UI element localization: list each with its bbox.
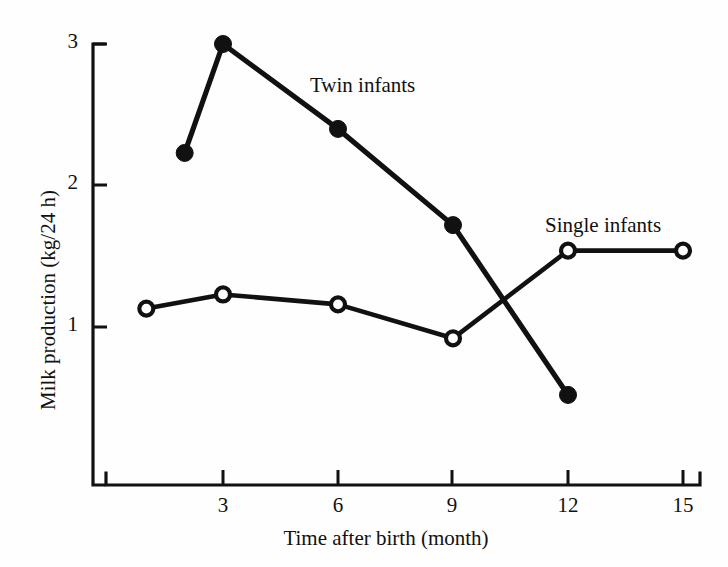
x-axis-line [106, 473, 700, 485]
data-point [560, 386, 577, 403]
x-tick-label-12: 12 [548, 495, 588, 516]
data-point [331, 297, 345, 311]
y-tick-label-3: 3 [48, 31, 78, 52]
chart-figure: 3 2 1 3 6 9 12 15 Time after birth (mont… [0, 0, 728, 567]
data-point [676, 244, 690, 258]
series-single-infants [139, 244, 690, 346]
data-point [446, 331, 460, 345]
y-axis-title: Milk production (kg/24 h) [36, 190, 61, 410]
x-tick-label-9: 9 [432, 495, 472, 516]
x-tick-label-6: 6 [318, 495, 358, 516]
data-point [561, 244, 575, 258]
data-point [176, 144, 193, 161]
data-point [139, 302, 153, 316]
data-point [215, 36, 232, 53]
data-point [445, 217, 462, 234]
x-tick-label-3: 3 [203, 495, 243, 516]
series-label-twin-infants: Twin infants [310, 73, 415, 98]
data-point [216, 287, 230, 301]
x-axis-title: Time after birth (month) [236, 526, 536, 551]
x-tick-label-15: 15 [663, 495, 703, 516]
y-axis-line [93, 44, 104, 485]
data-point [330, 120, 347, 137]
series-label-single-infants: Single infants [545, 213, 661, 238]
